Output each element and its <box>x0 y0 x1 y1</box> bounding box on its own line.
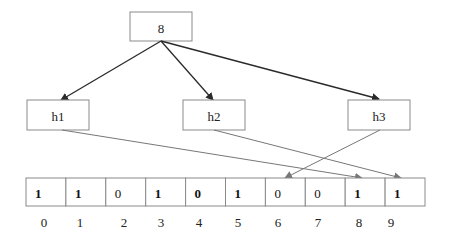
bit-value: 1 <box>354 186 361 201</box>
bit-cell-7: 0 <box>305 178 345 206</box>
bit-cell-box <box>305 178 345 206</box>
bit-value: 1 <box>75 186 82 201</box>
bit-index-label-0: 0 <box>41 215 48 230</box>
edge-root-to-h1 <box>61 41 161 100</box>
bit-cell-box <box>265 178 305 206</box>
hash-edges <box>62 130 401 178</box>
bit-index-label-2: 2 <box>121 215 128 230</box>
bit-value: 0 <box>314 186 321 201</box>
bit-index-label-1: 1 <box>77 215 84 230</box>
bit-value: 1 <box>235 186 242 201</box>
bit-cell-box <box>345 178 385 206</box>
bit-value: 0 <box>274 186 281 201</box>
bit-cell-5: 1 <box>226 178 266 206</box>
bit-cell-box <box>26 178 66 206</box>
bit-value: 0 <box>195 186 202 201</box>
hash-node-label: h1 <box>52 109 65 124</box>
bit-index-label-6: 6 <box>275 215 282 230</box>
bit-cell-9: 1 <box>385 178 425 206</box>
hash-node-h3: h3 <box>348 100 410 130</box>
hash-node-h1: h1 <box>27 100 89 130</box>
edge-root-to-h2 <box>161 41 213 100</box>
bit-index-label-4: 4 <box>196 215 203 230</box>
bit-index-label-8: 8 <box>356 215 363 230</box>
bit-cell-1: 1 <box>66 178 106 206</box>
bit-index-label-9: 9 <box>388 215 395 230</box>
root-node-label: 8 <box>158 21 165 36</box>
bit-cell-6: 0 <box>265 178 305 206</box>
hash-function-nodes: h1h2h3 <box>27 100 410 130</box>
bit-cell-box <box>66 178 106 206</box>
bit-cell-box <box>106 178 146 206</box>
bit-index-labels: 0123456789 <box>41 215 395 230</box>
edge-h2-to-bit-9 <box>214 130 401 178</box>
bit-cell-box <box>146 178 186 206</box>
bit-index-label-7: 7 <box>315 215 322 230</box>
hash-node-label: h3 <box>373 109 386 124</box>
bit-cell-4: 0 <box>186 178 226 206</box>
edge-h3-to-bit-6 <box>285 130 380 178</box>
bit-index-label-3: 3 <box>158 215 165 230</box>
edge-h1-to-bit-8 <box>62 130 362 178</box>
hash-node-label: h2 <box>208 109 221 124</box>
bit-array: 1101010011 <box>26 178 425 206</box>
bit-index-label-5: 5 <box>235 215 242 230</box>
bit-cell-box <box>186 178 226 206</box>
bit-cell-box <box>385 178 425 206</box>
root-node: 8 <box>130 12 192 41</box>
bit-value: 0 <box>115 186 122 201</box>
bit-value: 1 <box>35 186 42 201</box>
root-edges <box>61 41 379 100</box>
bit-cell-8: 1 <box>345 178 385 206</box>
bit-cell-2: 0 <box>106 178 146 206</box>
bloom-filter-diagram: 8 h1h2h3 1101010011 0123456789 <box>0 0 449 238</box>
edge-root-to-h3 <box>161 41 379 99</box>
bit-cell-box <box>226 178 266 206</box>
bit-cell-3: 1 <box>146 178 186 206</box>
bit-value: 1 <box>394 186 401 201</box>
bit-cell-0: 1 <box>26 178 66 206</box>
bit-value: 1 <box>155 186 162 201</box>
hash-node-h2: h2 <box>183 100 245 130</box>
